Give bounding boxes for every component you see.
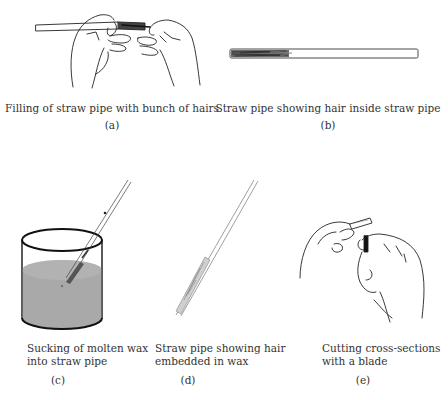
- label-panel-e: (e): [356, 373, 370, 387]
- caption-panel-d-line1: Straw pipe showing hair: [155, 341, 285, 355]
- caption-panel-e-line1: Cutting cross-sections: [322, 341, 441, 355]
- caption-panel-c-line2: into straw pipe: [27, 354, 107, 368]
- beaker-molten-wax-icon: [22, 180, 131, 329]
- caption-panel-a: Filling of straw pipe with bunch of hair…: [5, 101, 219, 115]
- label-panel-c: (c): [51, 373, 65, 387]
- straw-hair-in-wax-icon: [176, 180, 258, 316]
- label-panel-d: (d): [181, 373, 196, 387]
- caption-panel-c-line1: Sucking of molten wax: [27, 341, 148, 355]
- figure-illustrations: [0, 0, 448, 400]
- hands-filling-straw-icon: [36, 15, 200, 88]
- label-panel-b: (b): [321, 118, 336, 132]
- caption-panel-b: Straw pipe showing hair inside straw pip…: [215, 101, 440, 115]
- straw-pipe-with-hair-icon: [230, 49, 418, 58]
- hands-cutting-blade-icon: [300, 218, 424, 322]
- label-panel-a: (a): [105, 118, 119, 132]
- caption-panel-e-line2: with a blade: [322, 354, 388, 368]
- caption-panel-d-line2: embedded in wax: [155, 354, 248, 368]
